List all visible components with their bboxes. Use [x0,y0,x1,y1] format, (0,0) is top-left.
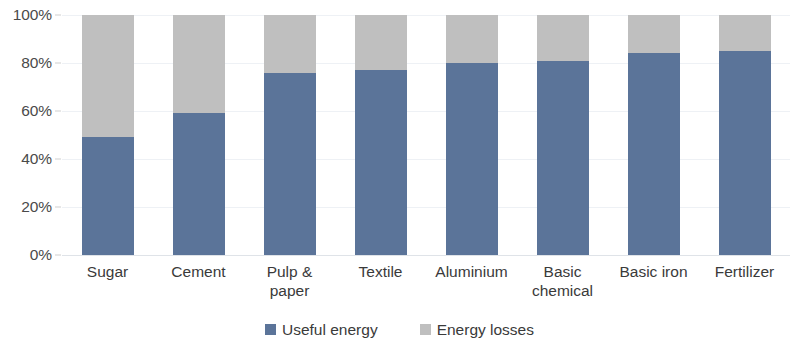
axis-baseline [62,255,790,256]
y-axis-tick-mark [55,255,61,256]
legend-label: Energy losses [437,322,534,338]
x-axis-tick-label: Basic iron [611,262,697,281]
chart-legend: Useful energyEnergy losses [0,322,799,338]
y-axis-tick-label: 100% [13,7,52,23]
y-axis-tick-label: 0% [30,247,52,263]
bar-group [82,15,134,255]
bar-segment-energy-losses [173,15,225,113]
legend-swatch-icon [265,324,276,335]
y-axis-tick-mark [55,15,61,16]
bar-segment-energy-losses [537,15,589,61]
y-axis: 100%80%60%40%20%0% [0,15,52,255]
bar-segment-useful-energy [82,137,134,255]
y-axis-tick-mark [55,207,61,208]
bar-group [264,15,316,255]
bar-segment-energy-losses [446,15,498,63]
bar-group [446,15,498,255]
bar-segment-energy-losses [82,15,134,137]
x-axis-tick-label: Textile [338,262,424,281]
x-axis: SugarCementPulp & paperTextileAluminiumB… [62,262,790,314]
bar-segment-useful-energy [446,63,498,255]
bar-group [537,15,589,255]
bar-group [719,15,771,255]
bar-segment-energy-losses [355,15,407,70]
bar-group [173,15,225,255]
x-axis-tick-label: Fertilizer [702,262,788,281]
bar-segment-useful-energy [628,53,680,255]
plot-area [62,15,790,255]
bar-series-container [62,15,790,255]
y-axis-tick-mark [55,159,61,160]
y-axis-tick-mark [55,111,61,112]
bar-segment-useful-energy [173,113,225,255]
x-axis-tick-label: Pulp & paper [247,262,333,300]
bar-group [628,15,680,255]
legend-item[interactable]: Useful energy [265,322,378,338]
bar-segment-energy-losses [264,15,316,73]
bar-segment-energy-losses [719,15,771,51]
x-axis-tick-label: Basic chemical [520,262,606,300]
bar-segment-energy-losses [628,15,680,53]
y-axis-tick-label: 60% [21,103,52,119]
y-axis-tick-label: 20% [21,199,52,215]
legend-label: Useful energy [282,322,378,338]
bar-group [355,15,407,255]
legend-swatch-icon [420,324,431,335]
x-axis-tick-label: Cement [156,262,242,281]
stacked-bar-chart: 100%80%60%40%20%0% SugarCementPulp & pap… [0,0,799,347]
y-axis-tick-label: 40% [21,151,52,167]
bar-segment-useful-energy [355,70,407,255]
bar-segment-useful-energy [537,61,589,255]
legend-item[interactable]: Energy losses [420,322,534,338]
y-axis-tick-mark [55,63,61,64]
y-axis-tick-label: 80% [21,55,52,71]
x-axis-tick-label: Sugar [65,262,151,281]
bar-segment-useful-energy [719,51,771,255]
bar-segment-useful-energy [264,73,316,255]
x-axis-tick-label: Aluminium [429,262,515,281]
